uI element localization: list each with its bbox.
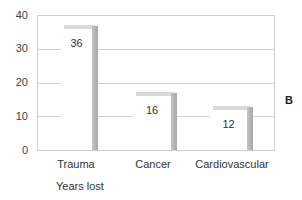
x-label-cancer: Cancer [135,158,170,170]
panel-label: B [285,94,293,106]
plot-area: 36 16 12 [37,15,275,151]
bar-side-face [171,93,177,150]
bar-value-label: 36 [61,37,92,49]
gridline-40 [38,15,274,16]
y-tick-40: 40 [0,9,28,21]
y-tick-20: 20 [0,76,28,88]
bar-cancer: 16 [133,96,171,150]
x-label-cardiovascular: Cardiovascular [195,158,268,170]
bar-top-face [213,106,250,110]
bar-side-face [92,26,98,151]
bar-top-face [64,25,95,29]
bar-value-label: 16 [133,104,171,116]
y-tick-30: 30 [0,42,28,54]
y-tick-10: 10 [0,110,28,122]
y-tick-0: 0 [0,144,28,156]
bar-top-face [136,92,174,96]
bar-cardiovascular: 12 [210,110,247,151]
bar-trauma: 36 [61,29,92,151]
bar-value-label: 12 [210,118,247,130]
x-label-trauma: Trauma [57,158,95,170]
x-axis-title: Years lost [56,180,104,192]
bar-side-face [247,107,253,151]
